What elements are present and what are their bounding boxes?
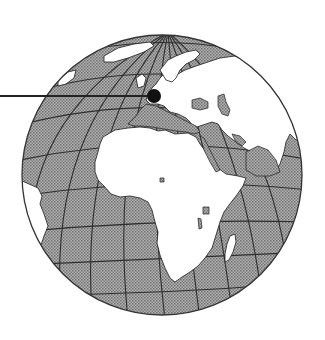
globe-figure — [0, 0, 325, 340]
lake-chad — [160, 178, 164, 182]
location-marker-dot — [147, 89, 161, 103]
lake-tanganyika — [198, 218, 202, 229]
globe-svg — [0, 0, 325, 340]
lake-victoria — [203, 207, 209, 214]
